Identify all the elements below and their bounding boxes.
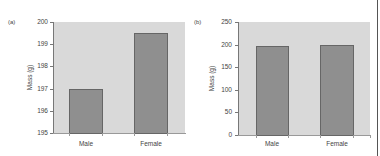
x-tick	[256, 135, 257, 138]
y-tick-label: 199	[26, 40, 48, 48]
y-axis-a	[53, 22, 54, 134]
x-tick	[167, 133, 168, 136]
bar-female-b	[320, 45, 354, 136]
y-axis-label-b: Mass (g)	[208, 59, 215, 99]
y-tick-label: 250	[210, 18, 232, 26]
y-tick	[50, 66, 53, 67]
y-tick	[235, 135, 238, 136]
y-axis-b	[238, 22, 239, 136]
category-label-female-b: Female	[317, 140, 357, 147]
x-tick	[320, 135, 321, 138]
y-tick	[235, 112, 238, 113]
category-label-female-a: Female	[131, 140, 171, 147]
y-tick	[50, 133, 53, 134]
y-tick	[235, 90, 238, 91]
page-edge-divider	[377, 0, 378, 156]
y-tick	[50, 22, 53, 23]
y-tick	[50, 89, 53, 90]
y-tick-label: 50	[210, 108, 232, 116]
panel-label-b: (b)	[194, 19, 201, 25]
y-tick-label: 200	[210, 41, 232, 49]
chart-panel-a: (a) 200 199 198 197 196 195 Mass (g) Mal…	[0, 0, 190, 156]
y-axis-label-a: Mass (g)	[26, 58, 33, 98]
bar-female-a	[134, 33, 168, 134]
y-tick-label: 196	[26, 107, 48, 115]
y-tick-label: 195	[26, 129, 48, 137]
chart-panel-b: (b) 250 200 150 100 50 0 Mass (g) Male F…	[190, 0, 380, 156]
x-tick	[134, 133, 135, 136]
panel-label-a: (a)	[8, 19, 15, 25]
bar-male-a	[69, 89, 103, 134]
y-tick	[50, 44, 53, 45]
bar-male-b	[256, 46, 289, 136]
x-tick	[102, 133, 103, 136]
category-label-male-b: Male	[252, 140, 292, 147]
y-tick-label: 0	[210, 131, 232, 139]
x-tick	[353, 135, 354, 138]
x-tick	[69, 133, 70, 136]
y-tick-label: 200	[26, 18, 48, 26]
y-tick	[235, 45, 238, 46]
x-tick	[288, 135, 289, 138]
category-label-male-a: Male	[66, 140, 106, 147]
y-tick	[235, 22, 238, 23]
y-tick	[235, 67, 238, 68]
y-tick	[50, 111, 53, 112]
x-tick	[370, 135, 371, 138]
